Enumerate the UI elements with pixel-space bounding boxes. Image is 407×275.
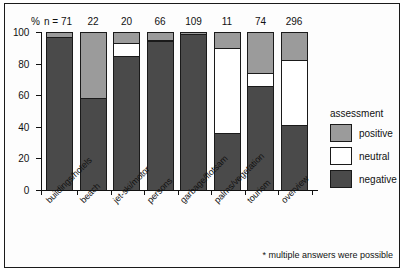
y-axis-tick-label: 40 [18, 121, 29, 132]
legend-item-positive[interactable]: positive [330, 124, 405, 142]
y-axis-tick: 60 [36, 95, 41, 96]
legend-title: assessment [330, 108, 405, 119]
bar-overview[interactable]: 296 [281, 32, 308, 190]
bar-segment-positive [113, 32, 140, 43]
legend-item-negative[interactable]: negative [330, 170, 405, 188]
y-axis-tick-label: 0 [24, 185, 29, 196]
x-axis-tick [312, 190, 313, 195]
bar-persons[interactable]: 66 [147, 32, 174, 190]
legend-items: positiveneutralnegative [330, 124, 405, 188]
legend-swatch-positive [330, 124, 352, 142]
y-axis-tick-label: 100 [13, 27, 29, 38]
bar-segment-positive [247, 32, 274, 73]
y-axis-unit-label: % [31, 16, 40, 27]
bar-segment-positive [281, 32, 308, 60]
bar-segment-neutral [113, 43, 140, 56]
legend-swatch-negative [330, 170, 352, 188]
bar-segment-negative [46, 37, 73, 190]
bar-segment-positive [147, 32, 174, 40]
bar-buildings-hotels[interactable]: n = 71 [46, 32, 73, 190]
y-axis-tick-label: 80 [18, 58, 29, 69]
legend-swatch-neutral [330, 147, 352, 165]
x-axis-tick [178, 190, 179, 195]
legend: assessment positiveneutralnegative [330, 108, 405, 193]
legend-label-neutral: neutral [359, 151, 390, 162]
bar-segment-positive [80, 32, 107, 98]
sample-size-label: 109 [180, 16, 207, 27]
x-axis-tick-origin [41, 190, 42, 195]
bar-garbage-flotsam[interactable]: 109 [180, 32, 207, 190]
sample-size-label: 22 [80, 16, 107, 27]
chart-frame: % 100806040200 n = 712220661091174296 bu… [4, 3, 400, 268]
plot-area: 100806040200 n = 712220661091174296 buil… [41, 32, 317, 190]
bar-segment-negative [147, 41, 174, 190]
bar-segment-negative [247, 86, 274, 190]
bar-jet-ski-motor[interactable]: 20 [113, 32, 140, 190]
legend-label-positive: positive [359, 128, 393, 139]
legend-label-negative: negative [359, 174, 397, 185]
x-axis-tick [111, 190, 112, 195]
bar-segment-negative [113, 56, 140, 190]
sample-size-label: 74 [247, 16, 274, 27]
bar-segment-neutral [214, 48, 241, 133]
x-axis-tick [77, 190, 78, 195]
legend-item-neutral[interactable]: neutral [330, 147, 405, 165]
y-axis-tick-label: 60 [18, 90, 29, 101]
x-axis-tick [211, 190, 212, 195]
y-axis-tick: 80 [36, 64, 41, 65]
sample-size-label: n = 71 [44, 16, 72, 27]
y-axis-tick-label: 20 [18, 153, 29, 164]
x-axis-tick [245, 190, 246, 195]
sample-size-label: 20 [113, 16, 140, 27]
footnote: * multiple answers were possible [262, 250, 393, 260]
bar-segment-neutral [247, 73, 274, 86]
sample-size-label: 66 [147, 16, 174, 27]
sample-size-label: 296 [281, 16, 308, 27]
y-axis-tick: 100 [36, 32, 41, 33]
bar-segment-negative [80, 98, 107, 190]
sample-size-label: 11 [214, 16, 241, 27]
y-axis-line [41, 32, 42, 191]
x-axis-line [41, 190, 318, 191]
y-axis-tick: 20 [36, 158, 41, 159]
x-axis-tick [278, 190, 279, 195]
bar-segment-positive [214, 32, 241, 48]
x-axis-tick [144, 190, 145, 195]
bar-segment-negative [180, 34, 207, 190]
y-axis-tick: 40 [36, 127, 41, 128]
bar-segment-neutral [281, 60, 308, 125]
